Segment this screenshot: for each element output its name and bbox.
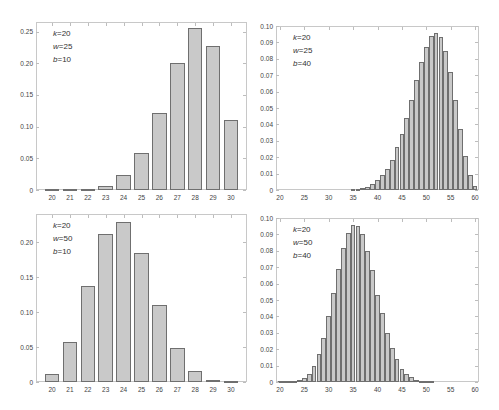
- x-tick-mark: [353, 27, 354, 30]
- annotation-line: b=10: [53, 245, 72, 258]
- x-tick-label: 55: [443, 194, 459, 201]
- x-tick-label: 25: [296, 194, 312, 201]
- y-tick-mark: [36, 190, 39, 191]
- bar-28: [188, 28, 203, 190]
- y-tick-mark: [276, 26, 279, 27]
- y-tick-mark: [36, 242, 39, 243]
- y-tick-label: 0.04: [245, 121, 273, 128]
- annotation-line: k=20: [293, 31, 312, 44]
- annotation-line: b=40: [293, 57, 312, 70]
- y-tick-label: 0.09: [245, 231, 273, 238]
- x-tick-label: 20: [272, 194, 288, 201]
- x-tick-mark: [159, 23, 160, 26]
- y-tick-label: 0.05: [5, 155, 33, 162]
- x-tick-mark: [231, 23, 232, 26]
- x-tick-mark: [70, 215, 71, 218]
- x-tick-label: 23: [98, 194, 114, 201]
- bar-27: [170, 63, 185, 190]
- annotation-line: w=25: [293, 44, 312, 57]
- y-tick-label: 0.15: [5, 274, 33, 281]
- bar-23: [98, 234, 113, 382]
- x-tick-mark: [304, 27, 305, 30]
- x-tick-label: 30: [223, 194, 239, 201]
- y-tick-mark: [276, 92, 279, 93]
- bar-25: [134, 253, 149, 382]
- annotation-line: k=20: [53, 27, 72, 40]
- x-tick-label: 60: [467, 194, 483, 201]
- y-tick-mark: [36, 95, 39, 96]
- x-tick-label: 24: [116, 194, 132, 201]
- y-tick-mark: [36, 382, 39, 383]
- bar-21: [63, 189, 78, 191]
- x-tick-mark: [195, 23, 196, 26]
- x-tick-mark: [70, 23, 71, 26]
- bar-21: [63, 342, 78, 382]
- y-tick-label: 0.06: [245, 280, 273, 287]
- x-tick-mark: [52, 215, 53, 218]
- y-tick-mark-right: [475, 92, 478, 93]
- y-tick-mark-right: [243, 32, 246, 33]
- y-tick-label: 0.20: [5, 239, 33, 246]
- x-tick-label: 30: [223, 386, 239, 393]
- bar-20: [45, 189, 60, 191]
- y-tick-mark: [36, 32, 39, 33]
- y-tick-label: 0.09: [245, 39, 273, 46]
- y-tick-mark: [276, 234, 279, 235]
- y-tick-mark: [276, 349, 279, 350]
- x-tick-mark: [426, 219, 427, 222]
- x-tick-label: 20: [44, 194, 60, 201]
- x-tick-label: 21: [62, 386, 78, 393]
- x-tick-label: 29: [205, 194, 221, 201]
- y-tick-mark-right: [475, 316, 478, 317]
- x-tick-mark: [106, 215, 107, 218]
- x-tick-label: 30: [321, 194, 337, 201]
- y-tick-mark-right: [475, 174, 478, 175]
- y-tick-mark-right: [475, 349, 478, 350]
- x-tick-label: 35: [345, 194, 361, 201]
- x-tick-mark: [88, 23, 89, 26]
- y-tick-mark-right: [475, 284, 478, 285]
- x-tick-label: 25: [134, 194, 150, 201]
- y-tick-label: 0: [5, 187, 33, 194]
- x-tick-label: 40: [370, 386, 386, 393]
- y-tick-mark: [276, 174, 279, 175]
- bar-29: [206, 46, 221, 190]
- y-tick-mark: [276, 42, 279, 43]
- x-tick-mark: [88, 215, 89, 218]
- y-tick-mark: [276, 316, 279, 317]
- y-tick-label: 0.20: [5, 60, 33, 67]
- y-tick-label: 0.02: [245, 346, 273, 353]
- parameter-annotation: k=20w=50b=10: [53, 219, 72, 258]
- x-tick-mark: [451, 27, 452, 30]
- x-tick-label: 22: [80, 386, 96, 393]
- y-tick-label: 0.10: [5, 309, 33, 316]
- y-tick-mark: [36, 63, 39, 64]
- x-tick-mark: [177, 215, 178, 218]
- y-tick-mark: [276, 267, 279, 268]
- y-tick-mark-right: [475, 141, 478, 142]
- x-tick-mark: [142, 215, 143, 218]
- y-tick-mark: [276, 251, 279, 252]
- x-tick-label: 22: [80, 194, 96, 201]
- y-tick-mark: [36, 347, 39, 348]
- y-tick-mark-right: [475, 234, 478, 235]
- y-tick-label: 0.06: [245, 88, 273, 95]
- y-tick-mark: [276, 284, 279, 285]
- x-tick-label: 21: [62, 194, 78, 201]
- x-tick-label: 45: [394, 194, 410, 201]
- y-tick-label: 0.08: [245, 55, 273, 62]
- x-tick-label: 55: [443, 386, 459, 393]
- y-tick-mark: [276, 333, 279, 334]
- y-tick-mark: [276, 141, 279, 142]
- y-tick-mark-right: [475, 157, 478, 158]
- y-tick-label: 0.05: [5, 344, 33, 351]
- x-tick-label: 50: [418, 386, 434, 393]
- y-tick-mark-right: [475, 42, 478, 43]
- y-tick-mark: [276, 300, 279, 301]
- y-tick-mark-right: [475, 108, 478, 109]
- bar-51: [429, 381, 434, 383]
- x-tick-label: 26: [151, 386, 167, 393]
- y-tick-mark: [276, 75, 279, 76]
- annotation-line: w=50: [293, 236, 312, 249]
- x-tick-mark: [402, 219, 403, 222]
